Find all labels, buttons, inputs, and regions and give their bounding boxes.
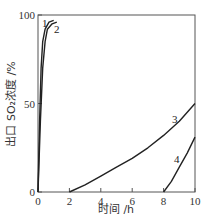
x-tick-label: 10 bbox=[190, 195, 202, 207]
curve-label-2: 2 bbox=[54, 23, 60, 35]
curve-label-3: 3 bbox=[172, 113, 178, 125]
y-tick-label: 100 bbox=[19, 9, 36, 21]
x-tick-label: 2 bbox=[67, 195, 73, 207]
x-tick-label: 8 bbox=[161, 195, 167, 207]
plot-frame bbox=[38, 15, 195, 192]
curve-label-4: 4 bbox=[174, 153, 180, 165]
curve-label-1: 1 bbox=[42, 17, 48, 29]
x-axis-label: 时间 /h bbox=[98, 203, 134, 216]
y-tick-label: 0 bbox=[30, 186, 36, 198]
y-axis-label: 出口 SO₂浓度 /% bbox=[4, 61, 18, 146]
y-tick-label: 50 bbox=[24, 98, 36, 110]
chart: 02468100501001234 时间 /h 出口 SO₂浓度 /% bbox=[0, 0, 208, 221]
series-line-2 bbox=[38, 22, 57, 192]
x-tick-label: 0 bbox=[35, 195, 41, 207]
